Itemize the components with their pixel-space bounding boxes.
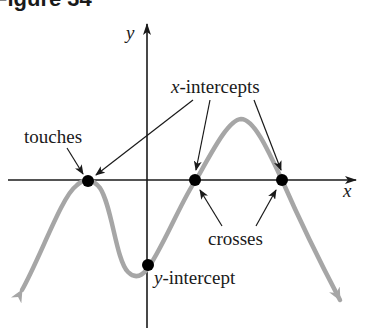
crosses-label: crosses xyxy=(208,228,263,249)
x-intercepts-label: x-intercepts xyxy=(170,76,260,97)
y-axis-label: y xyxy=(124,22,135,43)
touches-label: touches xyxy=(24,126,82,147)
crosses-arrow-left xyxy=(200,190,222,226)
x-intercepts-arrow-left xyxy=(96,100,193,175)
polynomial-graph: y x touches x-intercepts crosses y-inter… xyxy=(0,0,366,331)
touches-point xyxy=(82,175,94,187)
x-axis-label: x xyxy=(342,180,352,201)
y-intercept-point xyxy=(142,259,154,271)
x-intercept-point-2 xyxy=(276,174,288,186)
y-intercept-label: y-intercept xyxy=(152,267,236,288)
x-intercept-point-1 xyxy=(189,174,201,186)
touches-arrow xyxy=(67,148,83,174)
crosses-arrow-right xyxy=(256,190,276,226)
